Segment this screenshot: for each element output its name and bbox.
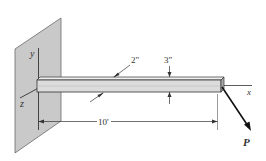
- beam: [37, 77, 224, 92]
- cantilever-beam-diagram: y z x 2": [0, 0, 266, 161]
- length-dimension-label: 10': [98, 117, 109, 127]
- force-p-label: P: [243, 136, 250, 148]
- width-dimension-label: 2": [131, 55, 140, 65]
- length-dimension: [39, 94, 218, 130]
- height-dimension-label: 3": [164, 55, 173, 65]
- z-axis-label: z: [19, 98, 24, 109]
- x-axis-label: x: [246, 87, 251, 97]
- y-axis-label: y: [29, 48, 35, 59]
